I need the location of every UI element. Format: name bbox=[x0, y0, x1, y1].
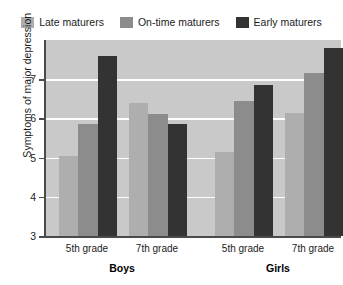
bar bbox=[254, 85, 273, 236]
bar bbox=[98, 56, 117, 236]
bar bbox=[234, 101, 253, 236]
y-axis-tick-label: 5 bbox=[0, 152, 36, 163]
bar bbox=[324, 48, 343, 236]
chart-legend: Late maturersOn-time maturersEarly matur… bbox=[0, 11, 343, 33]
plot-inner bbox=[45, 40, 341, 236]
bar-chart-figure: Late maturersOn-time maturersEarly matur… bbox=[0, 0, 343, 285]
bar bbox=[129, 103, 148, 236]
gridline bbox=[45, 79, 341, 81]
legend-item-label: Early maturers bbox=[254, 17, 322, 28]
x-axis-tick-label: 5th grade bbox=[66, 244, 108, 254]
bar bbox=[304, 73, 323, 236]
legend-swatch-icon bbox=[120, 17, 133, 28]
y-axis-line bbox=[44, 40, 46, 237]
bar bbox=[285, 113, 304, 236]
legend-item: On-time maturers bbox=[120, 17, 220, 28]
x-axis-group-label: Boys bbox=[109, 263, 135, 274]
x-axis-tick-label: 7th grade bbox=[292, 244, 334, 254]
y-axis-title: Symptoms of major depression bbox=[22, 0, 33, 175]
x-axis-tick-label: 5th grade bbox=[222, 244, 264, 254]
legend-item-label: On-time maturers bbox=[138, 17, 220, 28]
legend-swatch-icon bbox=[236, 17, 249, 28]
legend-item: Early maturers bbox=[236, 17, 322, 28]
bar bbox=[215, 152, 234, 236]
bar bbox=[148, 114, 167, 236]
y-axis-tick-label: 4 bbox=[0, 192, 36, 203]
x-axis-tick-label: 7th grade bbox=[136, 244, 178, 254]
x-axis-group-label: Girls bbox=[266, 263, 290, 274]
bar bbox=[59, 156, 78, 236]
legend-item-label: Late maturers bbox=[39, 17, 104, 28]
bar bbox=[78, 124, 97, 236]
y-axis-tick-label: 6 bbox=[0, 113, 36, 124]
y-axis-tick-label: 7 bbox=[0, 74, 36, 85]
x-axis-line bbox=[44, 236, 341, 238]
plot-area bbox=[44, 40, 341, 236]
bar bbox=[168, 124, 187, 236]
y-axis-tick-label: 3 bbox=[0, 231, 36, 242]
legend-item: Late maturers bbox=[21, 17, 104, 28]
